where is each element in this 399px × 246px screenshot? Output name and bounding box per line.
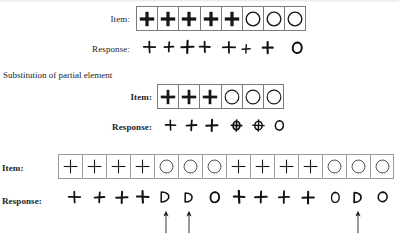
cell-circle-symbol [242,84,263,109]
cell-circle-symbol [284,6,305,31]
cell-circle-symbol [221,84,242,109]
cell-plus-symbol [106,154,130,179]
response-plus-symbol [92,190,107,209]
cell-plus-symbol [199,84,220,109]
section-1-item-label: Item: [58,14,130,24]
response-plus-symbol [253,189,269,209]
response-plus-symbol [114,190,129,209]
response-plus-symbol [162,40,176,58]
response-circle-symbol [272,118,287,137]
cell-plus-symbol [221,6,242,31]
cell-plus-symbol [130,154,154,179]
response-plus-symbol [141,39,158,60]
cell-plus-symbol [178,6,199,31]
section-1-response-row [136,36,316,58]
cell-circle-symbol [322,154,346,179]
cell-plus-symbol [200,6,221,31]
section-2-item-grid [157,84,284,109]
response-circle-symbol [375,189,391,209]
cell-plus-symbol [136,6,157,31]
response-d-shaped-circle-symbol [351,190,366,209]
section-3-arrow-markers [58,210,394,240]
cell-circle-symbol [202,154,226,179]
cell-plus-symbol [226,154,250,179]
response-plus-symbol [163,118,178,137]
cell-circle-symbol [154,154,178,179]
top-rule [0,0,399,2]
response-plus-symbol [179,39,195,59]
cell-plus-symbol [274,154,298,179]
cell-plus-symbol [157,6,178,31]
response-circle-with-plus-symbol [228,117,245,138]
cell-circle-symbol [178,154,202,179]
section-2-response-label: Response: [68,122,152,132]
section-2-response-row [157,114,285,136]
cell-plus-symbol [82,154,106,179]
response-plus-symbol [204,118,219,137]
section-3-response-row [58,186,394,208]
cell-circle-symbol [242,6,263,31]
cell-plus-symbol [178,84,199,109]
cell-circle-symbol [263,84,284,109]
section-3-item-label: Item: [2,163,24,173]
response-plus-symbol [184,118,199,137]
cell-plus-symbol [298,154,322,179]
figure-canvas: Item: Response: Substitution of partial … [0,0,399,246]
response-plus-symbol [300,189,317,210]
section-2-item-label: Item: [80,92,152,102]
cell-circle-symbol [346,154,370,179]
section-3-response-label: Response: [2,196,42,206]
response-plus-symbol [260,40,275,59]
cell-plus-symbol [157,84,178,109]
response-plus-symbol [135,189,151,209]
section-1-item-grid [136,6,306,31]
cell-plus-symbol [58,154,82,179]
response-plus-symbol [66,189,83,210]
response-plus-symbol [231,189,247,209]
response-circle-symbol [207,189,223,209]
section-3-item-grid [58,154,394,179]
response-plus-symbol [240,41,252,59]
response-d-shaped-circle-symbol [158,189,174,209]
up-arrow-marker [185,210,193,238]
response-circle-symbol [289,39,306,60]
response-plus-symbol [220,39,237,60]
cell-circle-symbol [263,6,284,31]
section-1-response-label: Response: [46,44,130,54]
response-d-shaped-circle-symbol [182,190,197,209]
up-arrow-marker [162,210,170,238]
response-plus-symbol [198,40,212,58]
response-circle-symbol [328,190,343,209]
cell-circle-symbol [370,154,394,179]
cell-plus-symbol [250,154,274,179]
up-arrow-marker [354,210,362,238]
response-circle-with-plus-symbol [250,117,267,138]
section-2-heading: Substitution of partial element [3,70,112,80]
response-plus-symbol [276,189,292,209]
